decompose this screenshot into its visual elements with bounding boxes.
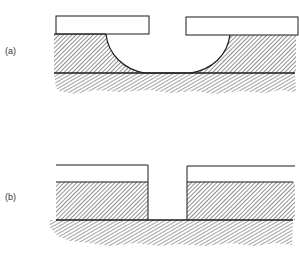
mask-right-a — [186, 17, 298, 35]
film-layer-b-right — [187, 182, 295, 220]
mask-left-a — [56, 16, 149, 34]
substrate-a — [54, 73, 296, 94]
panel-a — [54, 16, 298, 94]
etch-diagram — [0, 0, 299, 257]
film-layer-a — [54, 34, 145, 73]
film-layer-a-right — [190, 34, 296, 73]
panel-b — [50, 165, 295, 246]
substrate-b — [50, 220, 293, 246]
film-layer-b-left — [56, 182, 148, 220]
